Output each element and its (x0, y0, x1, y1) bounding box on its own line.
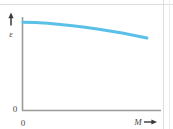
y-axis-label: ε (9, 29, 13, 39)
figure-container: ε 0 0 M (0, 0, 173, 129)
right-arrow-icon (144, 120, 157, 125)
y-origin-label: 0 (13, 104, 18, 114)
data-curve (23, 22, 147, 38)
x-origin-label: 0 (21, 118, 26, 128)
up-arrow-icon (8, 13, 13, 26)
plot-canvas: ε 0 0 M (0, 0, 173, 129)
x-axis-label: M (133, 117, 142, 127)
